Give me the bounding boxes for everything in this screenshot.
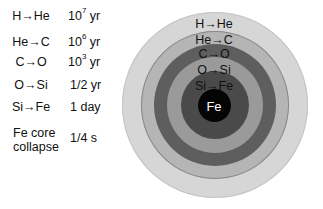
shell-label-o-si: O→Si (164, 63, 264, 77)
timescale: 106 yr (68, 35, 100, 49)
shell-label-he-c: He→C (164, 33, 264, 47)
timescale: 107 yr (68, 9, 100, 23)
timescale: 103 yr (68, 55, 100, 69)
shell-label-si-fe: Si→Fe (164, 79, 264, 93)
timescale: 1 day (70, 100, 101, 114)
process-label: O→Si (0, 78, 62, 92)
process-label: Si→Fe (0, 100, 62, 114)
process-label: Fe corecollapse (13, 126, 59, 154)
timescale: 1/2 yr (70, 78, 101, 92)
process-label: H→He (0, 9, 62, 23)
core-label-fe: Fe (164, 100, 264, 114)
shell-label-c-o: C→O (164, 47, 264, 61)
timescale: 1/4 s (70, 131, 97, 145)
shell-label-h-he: H→He (164, 17, 264, 31)
process-label: C→O (0, 55, 62, 69)
process-label: He→C (0, 35, 62, 49)
